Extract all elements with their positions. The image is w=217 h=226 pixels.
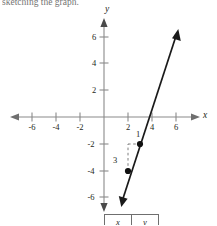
slope-rise-label: 3: [113, 155, 117, 165]
y-tick-label--2: -2: [83, 139, 99, 149]
x-tick-label-4: 4: [144, 122, 160, 132]
y-tick-label-2: 2: [86, 85, 102, 95]
table-header-x: x: [105, 215, 132, 226]
x-tick-label-6: 6: [168, 122, 184, 132]
table-header-row: x y: [105, 215, 159, 226]
y-tick-label--4: -4: [83, 166, 99, 176]
x-tick-label--6: -6: [24, 122, 40, 132]
x-tick-label--4: -4: [48, 122, 64, 132]
y-tick-label--6: -6: [83, 192, 99, 202]
line-upper-arrow: [172, 29, 181, 41]
point-2-neg5: [125, 168, 131, 174]
x-tick-label-2: 2: [120, 122, 136, 132]
marked-points-group: [125, 141, 143, 174]
x-axis-right-arrow: [191, 113, 200, 120]
x-axis-label: x: [203, 110, 207, 120]
y-axis-bottom-arrow: [100, 203, 107, 212]
x-tick-label--2: -2: [72, 122, 88, 132]
xy-value-table: x y: [104, 214, 159, 225]
line-lower-arrow: [119, 196, 128, 207]
y-tick-label-4: 4: [86, 58, 102, 68]
table-header-y: y: [132, 215, 159, 226]
y-axis-label: y: [105, 4, 109, 14]
y-axis-top-arrow: [100, 18, 107, 27]
x-axis-left-arrow: [10, 113, 19, 120]
coordinate-plane-graph: [0, 0, 217, 225]
point-3-neg2: [137, 141, 143, 147]
plotted-line: [123, 36, 177, 200]
slope-run-label: 1: [136, 129, 140, 139]
y-tick-label-6: 6: [86, 32, 102, 42]
